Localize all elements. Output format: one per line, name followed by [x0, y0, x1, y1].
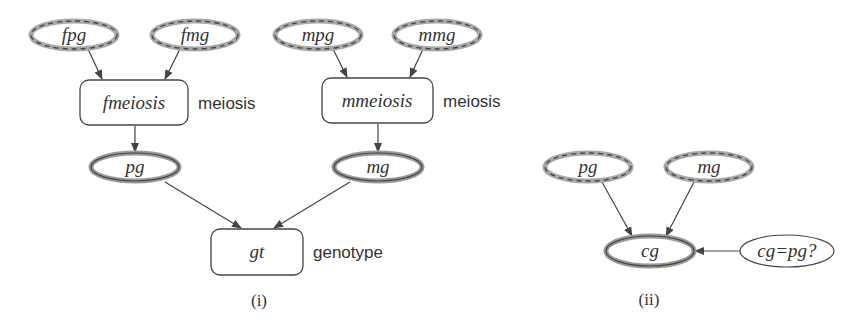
edge-mg-gt: [274, 182, 350, 228]
node-type-label: genotype: [313, 243, 383, 262]
edge-fmg-fmeiosis: [165, 49, 180, 79]
node-pg: pg: [91, 153, 179, 181]
node-pg-ii: pg: [545, 153, 631, 181]
node-label: mmeiosis: [342, 90, 413, 111]
node-label: fmg: [181, 24, 210, 45]
edges-panel-i: [88, 49, 423, 228]
node-mmeiosis: mmeiosis meiosis: [322, 78, 501, 123]
node-label: mpg: [302, 24, 335, 45]
node-label: fpg: [62, 24, 86, 45]
caption-i: (i): [251, 291, 267, 310]
node-label: mmg: [419, 24, 456, 45]
caption-ii: (ii): [639, 290, 660, 309]
node-fmeiosis: fmeiosis meiosis: [80, 80, 256, 125]
node-label: pg: [124, 156, 145, 177]
node-type-label: meiosis: [198, 94, 256, 113]
node-label: pg: [577, 156, 598, 177]
node-mpg: mpg: [275, 21, 361, 49]
node-label: mg: [697, 156, 720, 177]
edge-pg-cg: [602, 182, 632, 236]
node-gt: gt genotype: [211, 229, 383, 275]
node-label: cg=pg?: [757, 240, 817, 261]
panel-ii: pg mg cg cg=pg? (ii): [545, 153, 834, 309]
node-selector: cg=pg?: [740, 235, 834, 267]
panel-i: fpg fmg mpg mmg fmeiosis meiosis mmeiosi…: [31, 21, 501, 310]
node-cg: cg: [606, 236, 694, 266]
edge-mpg-mmeiosis: [333, 49, 347, 77]
node-label: cg: [641, 240, 659, 261]
node-mg-ii: mg: [666, 153, 752, 181]
node-type-label: meiosis: [443, 92, 501, 111]
edge-pg-gt: [165, 182, 241, 228]
edge-mmg-mmeiosis: [410, 49, 423, 77]
node-mmg: mmg: [394, 21, 480, 49]
node-label: fmeiosis: [103, 92, 165, 113]
node-label: mg: [366, 156, 389, 177]
node-fmg: fmg: [152, 21, 238, 49]
diagram: fpg fmg mpg mmg fmeiosis meiosis mmeiosi…: [0, 0, 858, 329]
node-label: gt: [250, 241, 266, 262]
node-mg: mg: [334, 153, 422, 181]
edge-mg-cg: [666, 182, 694, 236]
edge-fpg-fmeiosis: [88, 49, 102, 79]
node-fpg: fpg: [31, 21, 117, 49]
